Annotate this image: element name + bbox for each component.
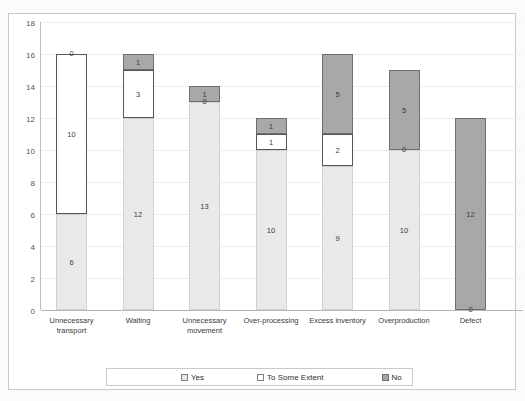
y-axis-tick-4: 4 [31,243,35,252]
x-axis-label: Excess inventory [301,316,375,326]
x-axis-label: Waiting [101,316,175,326]
x-axis-label-line2: transport [35,326,109,336]
plot-area: 181614121086420 610012311310101192510501… [40,22,522,342]
x-axis-label: Unnecessarytransport [35,316,109,336]
x-axis-label-line1: Defect [434,316,508,326]
y-axis-tick-8: 8 [31,179,35,188]
bar-segment-some[interactable]: 3 [123,70,154,118]
chart-title [9,3,517,14]
bar-segment-yes[interactable]: 12 [123,118,154,310]
chart-frame: 181614121086420 610012311310101192510501… [8,13,516,390]
y-axis-tick-18: 18 [26,19,35,28]
x-axis-label-line1: Unnecessary [168,316,242,326]
gridline-0: 0 [41,310,523,311]
legend-swatch-no [382,374,389,381]
bar-segment-no[interactable]: 5 [322,54,353,134]
bar-segment-yes[interactable]: 10 [389,150,420,310]
x-axis-label-line1: Excess inventory [301,316,375,326]
bar-segment-yes[interactable]: 13 [189,102,220,310]
legend-label: To Some Extent [267,373,323,382]
bar-group[interactable]: 1050 [389,22,420,310]
y-axis-tick-14: 14 [26,83,35,92]
y-axis-tick-2: 2 [31,275,35,284]
bar-group[interactable]: 925 [322,22,353,310]
bar-group[interactable]: 1310 [189,22,220,310]
x-axis-label: Overproduction [367,316,441,326]
bar-segment-some[interactable]: 1 [256,134,287,150]
bar-group[interactable]: 120 [455,22,486,310]
bar-segment-yes[interactable]: 6 [56,214,87,310]
bar-segment-no[interactable]: 12 [455,118,486,310]
x-axis-label-line1: Waiting [101,316,175,326]
y-axis-tick-6: 6 [31,211,35,220]
y-axis-tick-12: 12 [26,115,35,124]
y-axis-tick-0: 0 [31,307,35,316]
x-axis-label: Over-processing [234,316,308,326]
x-axis-label-line1: Overproduction [367,316,441,326]
legend-item-some[interactable]: To Some Extent [257,373,323,382]
y-axis-tick-10: 10 [26,147,35,156]
bar-segment-yes[interactable]: 10 [256,150,287,310]
bar-group[interactable]: 1011 [256,22,287,310]
legend-label: Yes [191,373,204,382]
legend-swatch-some [257,374,264,381]
x-axis-label: Unnecessarymovement [168,316,242,336]
bar-segment-no[interactable]: 5 [389,70,420,150]
bar-segment-some[interactable]: 10 [56,54,87,214]
legend-item-no[interactable]: No [382,373,402,382]
x-axis-label-line1: Over-processing [234,316,308,326]
legend-swatch-yes [181,374,188,381]
x-axis-label-line2: movement [168,326,242,336]
bar-segment-yes[interactable]: 9 [322,166,353,310]
x-axis-label: Defect [434,316,508,326]
bar-group[interactable]: 6100 [56,22,87,310]
bar-segment-some[interactable]: 2 [322,134,353,166]
legend-item-yes[interactable]: Yes [181,373,204,382]
y-axis-tick-16: 16 [26,51,35,60]
bar-segment-no[interactable]: 1 [123,54,154,70]
x-axis-label-line1: Unnecessary [35,316,109,326]
bar-segment-no[interactable]: 1 [256,118,287,134]
chart-legend: YesTo Some ExtentNo [106,368,413,386]
bar-group[interactable]: 1231 [123,22,154,310]
legend-label: No [392,373,402,382]
